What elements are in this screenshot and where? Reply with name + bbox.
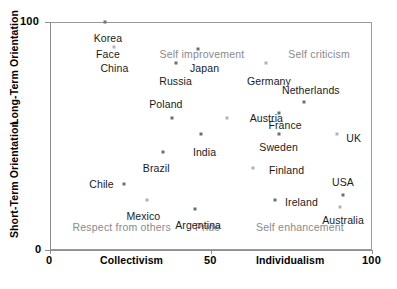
x-axis-title-individualism: Individualism	[256, 254, 324, 266]
data-point-label: USA	[332, 176, 354, 188]
data-point-label: Russia	[159, 75, 192, 87]
quadrant-label: Respect from others	[73, 221, 171, 233]
y-tick-label-100: 100	[20, 15, 39, 27]
data-point	[274, 198, 277, 201]
data-point-label: Netherlands	[282, 84, 340, 96]
data-point	[277, 132, 280, 135]
data-point	[264, 62, 267, 65]
data-point	[193, 207, 196, 210]
data-point-label: Sweden	[259, 141, 298, 153]
data-point-label: Japan	[190, 62, 219, 74]
y-tick-label-0: 0	[35, 243, 41, 255]
y-axis-title-short-term: Short-Term Orientation	[8, 148, 20, 238]
data-point-label: Mexico	[126, 210, 160, 222]
data-point-label: Poland	[149, 98, 182, 110]
data-point	[123, 182, 126, 185]
x-tick-label-50: 50	[204, 254, 217, 266]
data-point	[338, 205, 341, 208]
data-point-label: Australia	[322, 214, 364, 226]
y-axis-line	[50, 22, 51, 251]
data-point	[113, 46, 116, 49]
x-axis-title-collectivism: Collectivism	[100, 254, 163, 266]
data-point	[174, 62, 177, 65]
data-point	[251, 166, 254, 169]
data-point	[103, 21, 106, 24]
data-point	[335, 132, 338, 135]
data-point-label: Finland	[269, 164, 304, 176]
data-point-label: Brazil	[143, 162, 170, 174]
x-tick-label-100: 100	[362, 254, 381, 266]
data-point-label: Korea	[94, 32, 123, 44]
data-point-label: Face	[96, 48, 120, 60]
y-tick-0	[45, 250, 50, 251]
data-point	[277, 112, 280, 115]
data-point	[171, 116, 174, 119]
data-point-label: France	[268, 119, 301, 131]
data-point-label: India	[193, 146, 216, 158]
data-point-label: Chile	[89, 178, 113, 190]
data-point-label: Ireland	[285, 196, 318, 208]
data-point	[145, 198, 148, 201]
data-point	[303, 100, 306, 103]
y-tick-100	[45, 22, 50, 23]
data-point	[226, 116, 229, 119]
data-point	[342, 194, 345, 197]
scatter-chart: 100 0 0 50 100 Collectivism Individualis…	[0, 0, 397, 289]
quadrant-label: Self criticism	[288, 48, 350, 60]
data-point-label: Argentina	[175, 219, 221, 231]
data-point	[197, 48, 200, 51]
data-point-label: UK	[346, 132, 361, 144]
y-axis-title-long-term: Long-Term Orientation	[8, 35, 20, 125]
data-point-label: China	[100, 62, 128, 74]
quadrant-label: Self improvement	[159, 48, 244, 60]
data-point	[200, 132, 203, 135]
data-point	[161, 150, 164, 153]
x-tick-label-0: 0	[46, 254, 52, 266]
